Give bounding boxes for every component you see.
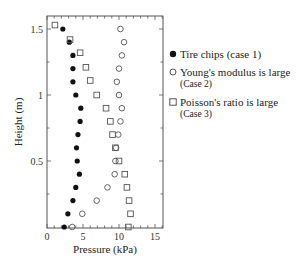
svg-text:15: 15 [150, 231, 160, 242]
legend-sublabel: (Case 2) [180, 78, 296, 90]
legend-item-case2: Young's modulus is large (Case 2) [166, 66, 296, 90]
svg-text:10: 10 [114, 231, 124, 242]
series-filled-circle [60, 26, 83, 229]
legend: Tire chips (case 1) Young's modulus is l… [166, 48, 296, 126]
tick-labels: 0510150.511.5 [31, 24, 161, 243]
svg-text:1.5: 1.5 [31, 24, 44, 35]
svg-text:0: 0 [45, 231, 50, 242]
filled-circle-icon [166, 48, 180, 58]
legend-sublabel: (Case 3) [180, 108, 296, 120]
legend-label: Tire chips (case 1) [180, 48, 261, 60]
series-open-square [52, 22, 133, 230]
legend-item-case3: Poisson's ratio is large (Case 3) [166, 96, 296, 120]
svg-text:0.5: 0.5 [31, 156, 44, 167]
axis-ticks [47, 16, 163, 228]
plot-frame [47, 16, 163, 228]
series-open-circle [69, 26, 126, 230]
open-square-icon [166, 96, 180, 106]
svg-text:1: 1 [38, 90, 43, 101]
chart: 0510150.511.5 Pressure (kPa) Height (m) [0, 0, 296, 269]
svg-text:5: 5 [81, 231, 86, 242]
y-axis-label: Height (m) [12, 97, 25, 146]
x-axis-label: Pressure (kPa) [73, 243, 137, 256]
open-circle-icon [166, 66, 180, 76]
legend-label: Young's modulus is large [180, 66, 290, 78]
legend-item-case1: Tire chips (case 1) [166, 48, 296, 60]
legend-label: Poisson's ratio is large [180, 96, 278, 108]
data-points [52, 22, 133, 230]
